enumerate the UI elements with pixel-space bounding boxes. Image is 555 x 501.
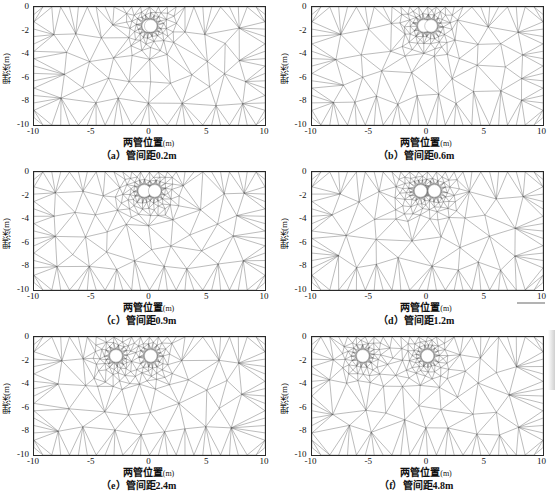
x-axis-tick-label: 0: [424, 126, 429, 136]
x-axis-title-unit: (m): [163, 139, 175, 148]
x-axis-tick-label: -10: [305, 291, 317, 301]
panel-caption-tag: （a）: [101, 150, 126, 161]
panel-caption-tag: （c）: [101, 315, 125, 326]
x-axis-tick-label: -10: [27, 456, 39, 466]
mesh-panel-b: 埋深(m)0-2-4-6-8-10-10-50510两管位置(m)（b）管间距0…: [278, 0, 555, 165]
panel-caption-tag: （e）: [101, 480, 125, 491]
x-axis-tick-label: -10: [305, 126, 317, 136]
y-axis-tick-labels: 0-2-4-6-8-10: [8, 330, 30, 454]
mesh-panel-c: 埋深(m)0-2-4-6-8-10-10-50510两管位置(m)（c）管间距0…: [0, 165, 278, 330]
y-axis-tick-label: 0: [25, 167, 30, 176]
x-axis-tick-label: -5: [87, 291, 95, 301]
x-axis-tick-label: -5: [365, 291, 373, 301]
panel-caption-label: 管间距4.8m: [403, 480, 454, 491]
x-axis-tick-label: 5: [204, 126, 209, 136]
x-axis-title-text: 两管位置: [400, 137, 440, 148]
y-axis-tick-label: -6: [22, 237, 30, 246]
y-axis-tick-label: -4: [22, 379, 30, 388]
x-axis-tick-label: -5: [365, 126, 373, 136]
x-axis-tick-label: -10: [27, 291, 39, 301]
x-axis-tick-label: 5: [204, 291, 209, 301]
x-axis-title-text: 两管位置: [400, 467, 440, 478]
scan-artifact-line: [517, 302, 545, 304]
y-axis-tick-labels: 0-2-4-6-8-10: [8, 165, 30, 289]
x-axis-title: 两管位置(m): [33, 467, 264, 480]
y-axis-tick-label: -4: [299, 214, 307, 223]
y-axis-tick-label: 0: [302, 332, 307, 341]
x-axis-title-unit: (m): [440, 469, 452, 478]
x-axis-tick-label: 5: [482, 126, 487, 136]
panel-caption: （a）管间距0.2m: [0, 150, 278, 162]
x-axis-title-unit: (m): [163, 469, 175, 478]
x-axis-tick-label: 0: [424, 291, 429, 301]
y-axis-tick-label: -8: [22, 261, 30, 270]
figure-panel-grid: 埋深(m)0-2-4-6-8-10-10-50510两管位置(m)（a）管间距0…: [0, 0, 555, 501]
panel-caption: （c）管间距0.9m: [0, 315, 278, 327]
x-axis-title-text: 两管位置: [400, 302, 440, 313]
x-axis-title: 两管位置(m): [311, 137, 542, 150]
x-axis-title: 两管位置(m): [33, 137, 264, 150]
x-axis-title-text: 两管位置: [123, 467, 163, 478]
x-axis-title: 两管位置(m): [311, 467, 542, 480]
panel-caption-label: 管间距1.2m: [404, 315, 455, 326]
y-axis-tick-label: -2: [299, 190, 307, 199]
y-axis-tick-label: 0: [302, 167, 307, 176]
y-axis-tick-label: -8: [299, 426, 307, 435]
mesh-plot-area: [33, 336, 266, 456]
x-axis-title-unit: (m): [163, 304, 175, 313]
y-axis-tick-label: 0: [25, 2, 30, 11]
x-axis-tick-label: 10: [537, 291, 546, 301]
mesh-plot-area: [33, 6, 266, 126]
y-axis-tick-labels: 0-2-4-6-8-10: [286, 330, 308, 454]
y-axis-tick-label: -2: [22, 355, 30, 364]
x-axis-tick-label: 10: [260, 126, 269, 136]
panel-caption: （b）管间距0.6m: [278, 150, 555, 162]
mesh-panel-f: 埋深(m)0-2-4-6-8-10-10-50510两管位置(m)（f）管间距4…: [278, 330, 555, 501]
y-axis-tick-label: -6: [299, 402, 307, 411]
y-axis-tick-label: -6: [22, 72, 30, 81]
y-axis-tick-labels: 0-2-4-6-8-10: [286, 0, 308, 124]
panel-caption: （d）管间距1.2m: [278, 315, 555, 327]
x-axis-title-unit: (m): [440, 139, 452, 148]
y-axis-tick-label: -2: [22, 190, 30, 199]
x-axis-title: 两管位置(m): [33, 302, 264, 315]
y-axis-tick-label: -2: [299, 355, 307, 364]
x-axis-tick-label: 0: [146, 126, 151, 136]
x-axis-title: 两管位置(m): [311, 302, 542, 315]
x-axis-tick-label: -10: [27, 126, 39, 136]
y-axis-tick-labels: 0-2-4-6-8-10: [8, 0, 30, 124]
panel-caption-tag: （f）: [379, 480, 402, 491]
x-axis-tick-label: 5: [482, 291, 487, 301]
y-axis-tick-labels: 0-2-4-6-8-10: [286, 165, 308, 289]
y-axis-tick-label: 0: [302, 2, 307, 11]
y-axis-tick-label: -8: [22, 96, 30, 105]
y-axis-tick-label: -8: [299, 96, 307, 105]
panel-caption-tag: （d）: [378, 315, 404, 326]
y-axis-tick-label: -6: [299, 72, 307, 81]
x-axis-tick-label: 10: [260, 456, 269, 466]
mesh-plot-area: [311, 336, 544, 456]
y-axis-tick-label: -8: [22, 426, 30, 435]
x-axis-tick-label: 0: [146, 291, 151, 301]
x-axis-tick-label: 10: [260, 291, 269, 301]
x-axis-tick-label: -5: [87, 456, 95, 466]
x-axis-tick-label: 10: [537, 126, 546, 136]
x-axis-tick-label: -5: [87, 126, 95, 136]
mesh-panel-d: 埋深(m)0-2-4-6-8-10-10-50510两管位置(m)（d）管间距1…: [278, 165, 555, 330]
scan-edge-shadow: [548, 330, 555, 390]
mesh-panel-a: 埋深(m)0-2-4-6-8-10-10-50510两管位置(m)（a）管间距0…: [0, 0, 278, 165]
mesh-plot-area: [33, 171, 266, 291]
mesh-panel-e: 埋深(m)0-2-4-6-8-10-10-50510两管位置(m)（e）管间距2…: [0, 330, 278, 501]
y-axis-tick-label: -6: [299, 237, 307, 246]
x-axis-title-unit: (m): [440, 304, 452, 313]
panel-caption: （f）管间距4.8m: [278, 480, 555, 492]
y-axis-tick-label: -4: [22, 49, 30, 58]
y-axis-tick-label: -2: [299, 25, 307, 34]
mesh-plot-area: [311, 171, 544, 291]
panel-caption-label: 管间距2.4m: [126, 480, 177, 491]
x-axis-tick-label: 5: [204, 456, 209, 466]
x-axis-title-text: 两管位置: [123, 302, 163, 313]
x-axis-title-text: 两管位置: [123, 137, 163, 148]
y-axis-tick-label: -2: [22, 25, 30, 34]
panel-caption-label: 管间距0.9m: [126, 315, 177, 326]
